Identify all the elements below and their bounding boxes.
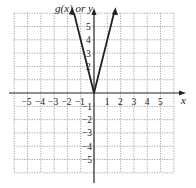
- svg-text:3: 3: [86, 49, 91, 59]
- svg-text:−3: −3: [48, 97, 58, 107]
- svg-text:5: 5: [86, 22, 91, 32]
- svg-text:−4: −4: [82, 142, 92, 152]
- svg-text:3: 3: [131, 97, 136, 107]
- arrowhead-icon: [112, 7, 118, 15]
- svg-text:−5: −5: [82, 155, 92, 165]
- svg-text:−5: −5: [22, 97, 32, 107]
- svg-text:−4: −4: [35, 97, 45, 107]
- x-axis-label: x: [180, 94, 186, 106]
- svg-text:5: 5: [158, 97, 163, 107]
- svg-text:−2: −2: [82, 115, 92, 125]
- y-axis-label: g(x) or y: [55, 2, 93, 15]
- svg-text:−3: −3: [82, 128, 92, 138]
- svg-text:2: 2: [118, 97, 123, 107]
- graph: −5−4−3−2−1123455432−1−2−3−4−5 g(x) or y …: [0, 0, 196, 188]
- svg-text:4: 4: [86, 35, 91, 45]
- svg-text:4: 4: [145, 97, 150, 107]
- svg-text:−2: −2: [61, 97, 71, 107]
- svg-text:−1: −1: [82, 102, 92, 112]
- svg-text:1: 1: [105, 97, 110, 107]
